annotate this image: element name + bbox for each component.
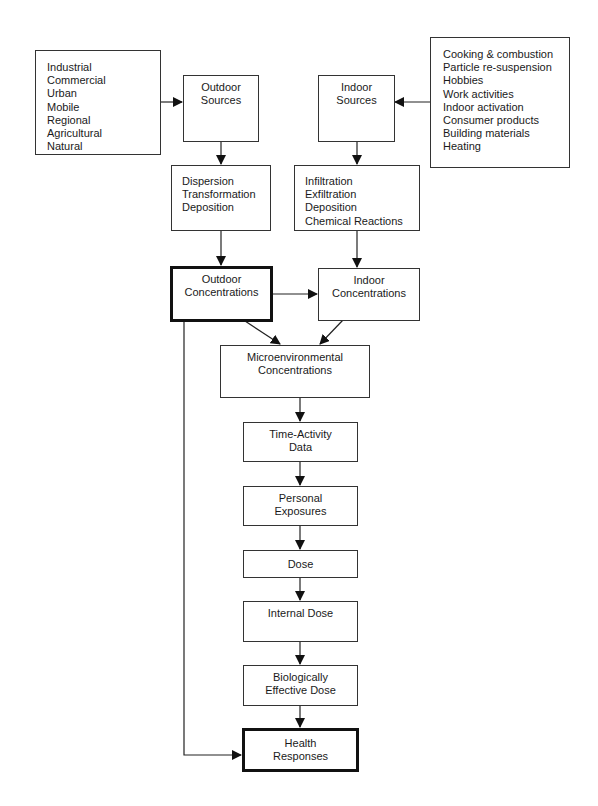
node-text: Indoor activation [443, 101, 569, 114]
node-text: Time-Activity [244, 428, 357, 441]
indoor-sources-box: Indoor Sources [318, 75, 395, 142]
node-text: Dose [244, 558, 357, 571]
indoor-concentrations-box: Indoor Concentrations [318, 268, 420, 321]
node-text: Sources [184, 94, 258, 107]
node-text: Exposures [244, 505, 357, 518]
node-text: Deposition [182, 201, 270, 214]
node-text: Outdoor [173, 273, 270, 286]
node-text: Concentrations [221, 364, 369, 377]
node-text: Natural [47, 140, 160, 153]
indoor-processes-box: Infiltration Exfiltration Deposition Che… [294, 165, 420, 231]
node-text: Transformation [182, 188, 270, 201]
node-text: Internal Dose [244, 607, 357, 620]
node-text: Health [245, 737, 356, 750]
node-text: Indoor [319, 81, 394, 94]
node-text: Particle re-suspension [443, 61, 569, 74]
internal-dose-box: Internal Dose [243, 601, 358, 642]
personal-exposures-box: Personal Exposures [243, 486, 358, 526]
node-text: Dispersion [182, 175, 270, 188]
node-text: Personal [244, 492, 357, 505]
outdoor-sources-box: Outdoor Sources [183, 75, 259, 142]
node-text: Indoor [319, 274, 419, 287]
node-text: Regional [47, 114, 160, 127]
node-text: Hobbies [443, 74, 569, 87]
node-text: Chemical Reactions [305, 215, 419, 228]
node-text: Work activities [443, 88, 569, 101]
node-text: Infiltration [305, 175, 419, 188]
microenvironmental-concentrations-box: Microenvironmental Concentrations [220, 345, 370, 398]
outdoor-concentrations-box: Outdoor Concentrations [170, 266, 273, 322]
node-text: Urban [47, 87, 160, 100]
node-text: Sources [319, 94, 394, 107]
node-text: Biologically [244, 671, 357, 684]
node-text: Agricultural [47, 127, 160, 140]
node-text: Deposition [305, 201, 419, 214]
outdoor-source-types-box: Industrial Commercial Urban Mobile Regio… [35, 50, 161, 155]
node-text: Mobile [47, 101, 160, 114]
node-text: Building materials [443, 127, 569, 140]
node-text: Exfiltration [305, 188, 419, 201]
node-text: Consumer products [443, 114, 569, 127]
node-text: Outdoor [184, 81, 258, 94]
indoor-source-types-box: Cooking & combustion Particle re-suspens… [430, 37, 570, 168]
biologically-effective-dose-box: Biologically Effective Dose [243, 665, 358, 706]
health-responses-box: Health Responses [242, 728, 359, 772]
node-text: Industrial [47, 61, 160, 74]
time-activity-data-box: Time-Activity Data [243, 422, 358, 462]
node-text: Effective Dose [244, 684, 357, 697]
dose-box: Dose [243, 550, 358, 578]
outdoor-processes-box: Dispersion Transformation Deposition [171, 165, 271, 231]
node-text: Data [244, 441, 357, 454]
node-text: Concentrations [173, 286, 270, 299]
node-text: Heating [443, 140, 569, 153]
node-text: Responses [245, 750, 356, 763]
node-text: Commercial [47, 74, 160, 87]
node-text: Concentrations [319, 287, 419, 300]
node-text: Microenvironmental [221, 351, 369, 364]
node-text: Cooking & combustion [443, 48, 569, 61]
